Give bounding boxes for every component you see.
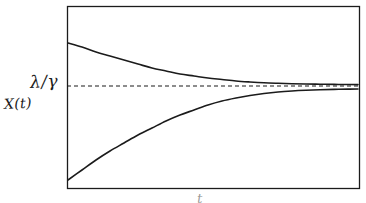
y-axis-variable-label: X(t): [4, 96, 32, 111]
x-axis-time-label: t: [197, 192, 203, 203]
figure-canvas: λ/γ X(t) t: [0, 0, 366, 203]
plot-frame: [68, 7, 360, 189]
y-axis-threshold-label: λ/γ: [30, 73, 59, 91]
plot-svg: [0, 0, 366, 203]
